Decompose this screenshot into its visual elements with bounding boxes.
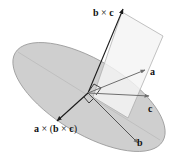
triple-product-diagram: b × c a c b a × (b × c) (0, 0, 176, 154)
label-a: a (150, 66, 155, 77)
label-b: b (137, 137, 143, 148)
label-c: c (148, 103, 153, 114)
label-b-cross-c: b × c (93, 7, 114, 18)
label-a-cross-b-cross-c: a × (b × c) (34, 123, 77, 135)
